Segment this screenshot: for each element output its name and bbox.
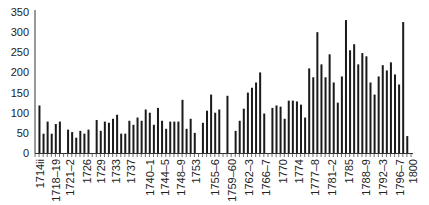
x-tick-label: 1777–8 bbox=[309, 159, 321, 196]
bar bbox=[161, 121, 163, 153]
bar bbox=[325, 77, 327, 153]
bar bbox=[333, 83, 335, 154]
bar bbox=[271, 108, 273, 153]
bar bbox=[75, 138, 77, 153]
bar bbox=[378, 76, 380, 153]
y-tick-label: 350 bbox=[11, 6, 29, 18]
bar bbox=[300, 105, 302, 153]
x-tick-label: 1800 bbox=[407, 159, 419, 183]
bar bbox=[202, 123, 204, 153]
bar bbox=[181, 100, 183, 153]
bar bbox=[87, 130, 89, 153]
x-axis: 1714ii1718–191721–217261729173317371740–… bbox=[34, 153, 419, 202]
bars bbox=[38, 20, 408, 153]
bar bbox=[251, 88, 253, 153]
bar bbox=[263, 114, 265, 153]
bar bbox=[398, 85, 400, 153]
bar bbox=[137, 118, 139, 153]
bar bbox=[312, 77, 314, 153]
bar bbox=[361, 53, 363, 153]
bar bbox=[141, 121, 143, 153]
bar bbox=[55, 124, 57, 153]
y-tick-label: 250 bbox=[11, 46, 29, 58]
bar bbox=[374, 95, 376, 153]
y-tick-label: 300 bbox=[11, 26, 29, 38]
bar bbox=[169, 122, 171, 153]
bar bbox=[132, 125, 134, 153]
bar bbox=[173, 122, 175, 153]
x-tick-label: 1729 bbox=[95, 159, 107, 183]
bar bbox=[259, 72, 261, 153]
x-tick-label: 1781–2 bbox=[326, 159, 338, 196]
x-tick-label: 1766–7 bbox=[260, 159, 272, 196]
bar bbox=[406, 136, 408, 153]
y-tick-label: 0 bbox=[23, 147, 29, 159]
bar bbox=[51, 134, 53, 153]
bar bbox=[382, 65, 384, 153]
bar bbox=[104, 122, 106, 153]
x-tick-label: 1774 bbox=[293, 159, 305, 183]
bar bbox=[112, 119, 114, 153]
bar bbox=[304, 118, 306, 153]
x-tick-label: 1785 bbox=[343, 159, 355, 183]
y-tick-label: 200 bbox=[11, 66, 29, 78]
y-tick-label: 100 bbox=[11, 107, 29, 119]
bar bbox=[206, 111, 208, 153]
bar bbox=[226, 96, 228, 153]
bar bbox=[243, 109, 245, 153]
bar bbox=[247, 93, 249, 153]
x-tick-label: 1714ii bbox=[34, 159, 46, 188]
bar bbox=[194, 133, 196, 153]
x-tick-label: 1748–9 bbox=[175, 159, 187, 196]
bar bbox=[280, 107, 282, 153]
x-tick-label: 1796–7 bbox=[394, 159, 406, 196]
bar bbox=[124, 134, 126, 153]
bar bbox=[288, 101, 290, 153]
bar bbox=[235, 131, 237, 153]
bar bbox=[308, 68, 310, 153]
x-tick-label: 1762–3 bbox=[243, 159, 255, 196]
bar bbox=[349, 50, 351, 153]
bar bbox=[275, 105, 277, 153]
x-tick-label: 1737 bbox=[125, 159, 137, 183]
bar bbox=[365, 56, 367, 153]
x-tick-label: 1788–9 bbox=[360, 159, 372, 196]
bar bbox=[320, 64, 322, 153]
bar bbox=[255, 83, 257, 154]
bar bbox=[128, 121, 130, 153]
bar bbox=[337, 103, 339, 153]
x-tick-label: 1759–60 bbox=[226, 159, 238, 202]
bar bbox=[108, 123, 110, 153]
bar bbox=[100, 131, 102, 153]
bar bbox=[149, 113, 151, 153]
bar bbox=[79, 131, 81, 153]
bar bbox=[284, 119, 286, 153]
y-tick-label: 150 bbox=[11, 87, 29, 99]
chart-canvas: 050100150200250300350 1714ii1718–191721–… bbox=[0, 0, 429, 205]
bar bbox=[345, 20, 347, 153]
x-tick-label: 1755–6 bbox=[209, 159, 221, 196]
bar bbox=[390, 62, 392, 153]
bar bbox=[341, 76, 343, 153]
x-tick-label: 1740–1 bbox=[144, 159, 156, 196]
bar bbox=[214, 113, 216, 153]
bar bbox=[218, 109, 220, 153]
bar bbox=[153, 125, 155, 153]
bar bbox=[71, 132, 73, 153]
x-tick-label: 1744–5 bbox=[159, 159, 171, 196]
bar bbox=[157, 108, 159, 153]
bar bbox=[210, 95, 212, 153]
bar-chart: 050100150200250300350 1714ii1718–191721–… bbox=[0, 0, 429, 205]
bar bbox=[38, 105, 40, 153]
bar bbox=[59, 122, 61, 153]
bar bbox=[386, 70, 388, 153]
y-axis: 050100150200250300350 bbox=[11, 6, 35, 159]
bar bbox=[292, 101, 294, 153]
bar bbox=[116, 115, 118, 153]
bar bbox=[165, 129, 167, 153]
x-tick-label: 1733 bbox=[110, 159, 122, 183]
bar bbox=[47, 122, 49, 153]
bar bbox=[96, 120, 98, 153]
x-tick-label: 1753 bbox=[190, 159, 202, 183]
bar bbox=[316, 32, 318, 153]
